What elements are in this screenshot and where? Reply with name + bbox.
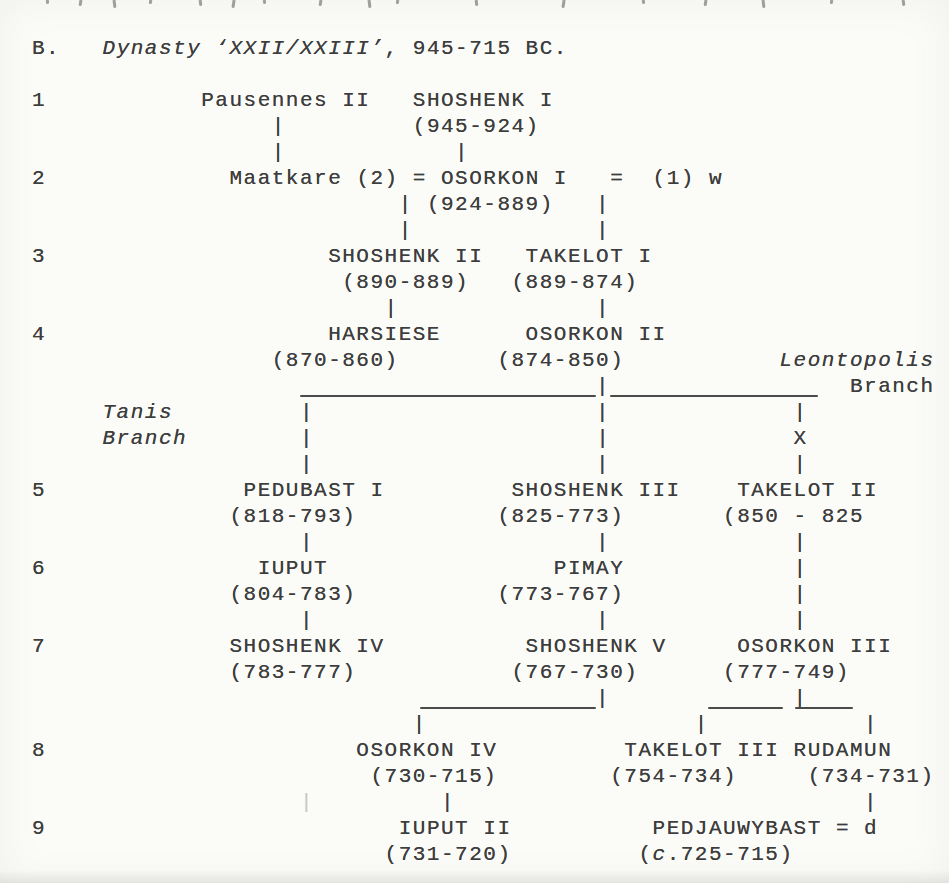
branch-label-leontopolis: Branch xyxy=(850,375,935,398)
cropped-text-artifact-mark xyxy=(199,0,203,6)
reign-dates: (773-767) xyxy=(497,583,624,606)
cropped-text-artifact-mark xyxy=(319,0,323,6)
reign-dates: (889-874) xyxy=(511,271,638,294)
descent-connector: | xyxy=(596,427,610,450)
person-name: TAKELOT I xyxy=(526,245,653,268)
branch-label-leontopolis: Leontopolis xyxy=(779,349,934,372)
cropped-text-artifact-mark xyxy=(263,0,266,4)
descent-connector: | xyxy=(300,427,314,450)
descent-connector: | xyxy=(794,531,808,554)
scan-artifact-bar: | xyxy=(300,791,314,814)
reign-dates: (804-783) xyxy=(229,583,356,606)
person-name: TAKELOT III xyxy=(624,739,779,762)
generation-row-2: 2 Maatkare (2) = OSORKON I = (1) w xyxy=(32,166,723,192)
tree-line: Branch | | X xyxy=(32,426,808,452)
tree-line: (783-777) (767-730) (777-749) xyxy=(32,660,850,686)
reign-dates: (945-924) xyxy=(413,115,540,138)
cropped-text-artifact-mark xyxy=(762,0,766,8)
scanned-page: B. Dynasty ‘XXII/XXIII’, 945-715 BC.1 Pa… xyxy=(0,0,949,883)
descent-connector: | xyxy=(695,713,709,736)
person-name: SHOSHENK IV xyxy=(229,635,384,658)
reign-dates: (850 - 825 xyxy=(723,505,864,528)
cropped-text-artifact-mark xyxy=(902,0,906,6)
descent-connector: | xyxy=(864,713,878,736)
cropped-text-artifact-mark xyxy=(79,0,83,6)
tree-line: (730-715) (754-734) (734-731) xyxy=(32,764,935,790)
tree-line: | | | xyxy=(32,530,808,556)
descent-connector: | xyxy=(864,791,878,814)
descent-rule xyxy=(610,395,818,397)
tree-line: | | | xyxy=(32,790,878,816)
cropped-text-artifact-mark xyxy=(561,0,565,8)
tree-line: (818-793) (825-773) (850 - 825 xyxy=(32,504,864,530)
person-name: SHOSHENK V xyxy=(526,635,667,658)
generation-number: 5 xyxy=(32,479,46,502)
descent-connector: | xyxy=(455,141,469,164)
tree-line: | | xyxy=(32,296,610,322)
person-name: Pausennes II xyxy=(201,89,370,112)
cropped-text-artifact-mark xyxy=(704,0,708,6)
descent-connector: | xyxy=(596,219,610,242)
descent-connector: | xyxy=(794,609,808,632)
descent-connector: | xyxy=(385,297,399,320)
generation-row-9: 9 IUPUT II PEDJAUWYBAST = d xyxy=(32,816,878,842)
generation-row-1: 1 Pausennes II SHOSHENK I xyxy=(32,88,554,114)
descent-connector: | xyxy=(300,609,314,632)
section-title: Dynasty ‘XXII/XXIII’ xyxy=(103,37,385,60)
marriage-sign: = xyxy=(836,817,850,840)
marriage-order: (2) xyxy=(356,167,398,190)
reign-dates: ( xyxy=(638,843,652,866)
generation-row-6: 6 IUPUT PIMAY | xyxy=(32,556,808,582)
generation-number: 4 xyxy=(32,323,46,346)
descent-connector: | xyxy=(413,713,427,736)
generation-number: 1 xyxy=(32,89,46,112)
descent-connector: | xyxy=(399,219,413,242)
descent-connector: | xyxy=(399,193,413,216)
generation-number: 8 xyxy=(32,739,46,762)
descent-connector: | xyxy=(596,375,610,398)
person-name: SHOSHENK I xyxy=(413,89,554,112)
reign-dates: (767-730) xyxy=(511,661,638,684)
cropped-text-artifact-mark xyxy=(149,0,153,4)
reign-dates: (818-793) xyxy=(229,505,356,528)
person-name: Maatkare xyxy=(229,167,342,190)
person-name: SHOSHENK III xyxy=(512,479,681,502)
descent-rule xyxy=(420,707,596,709)
cropped-text-artifact-mark xyxy=(396,0,400,4)
descent-connector: | xyxy=(596,193,610,216)
descent-connector: | xyxy=(300,401,314,424)
person-name: OSORKON IV xyxy=(356,739,497,762)
daughter-abbrev: d xyxy=(864,817,878,840)
descent-connector: | xyxy=(272,141,286,164)
tree-line: (890-889) (889-874) xyxy=(32,270,638,296)
descent-connector: | xyxy=(596,401,610,424)
person-name: PEDJAUWYBAST xyxy=(653,817,822,840)
person-name: OSORKON III xyxy=(737,635,892,658)
tree-line: | (945-924) xyxy=(32,114,540,140)
reign-dates: (734-731) xyxy=(808,765,935,788)
person-name: OSORKON I xyxy=(441,167,568,190)
reign-dates: (870-860) xyxy=(272,349,399,372)
marriage-sign: = xyxy=(610,167,624,190)
circa-abbrev: c xyxy=(653,843,667,866)
descent-connector: | xyxy=(794,401,808,424)
descent-connector: | xyxy=(794,557,808,580)
person-name: IUPUT xyxy=(258,557,329,580)
person-name: IUPUT II xyxy=(399,817,512,840)
generation-row-4: 4 HARSIESE OSORKON II xyxy=(32,322,667,348)
tree-line: | | | xyxy=(32,712,878,738)
section-letter: B. xyxy=(32,37,60,60)
descent-connector: | xyxy=(596,609,610,632)
generation-number: 2 xyxy=(32,167,46,190)
descent-connector: | xyxy=(596,453,610,476)
section-heading: B. Dynasty ‘XXII/XXIII’, 945-715 BC. xyxy=(32,36,568,62)
descent-connector: | xyxy=(794,583,808,606)
reign-dates: .725-715) xyxy=(667,843,794,866)
descent-connector: | xyxy=(300,531,314,554)
generation-row-5: 5 PEDUBAST I SHOSHENK III TAKELOT II xyxy=(32,478,878,504)
cropped-text-artifact-mark xyxy=(475,0,479,6)
cropped-text-artifact-mark xyxy=(830,0,834,4)
person-name: TAKELOT II xyxy=(737,479,878,502)
tree-line: Tanis | | | xyxy=(32,400,808,426)
generation-row-3: 3 SHOSHENK II TAKELOT I xyxy=(32,244,653,270)
